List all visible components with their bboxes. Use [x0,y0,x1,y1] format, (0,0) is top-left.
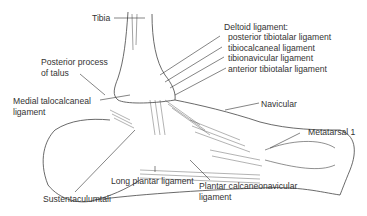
label-deltoid-posterior-tibiotalar: posterior tibiotalar ligament [228,32,331,42]
label-plantar-calcaneonavicular-line2: ligament [199,192,231,202]
label-deltoid-anterior-tibiotalar: anterior tibiotalar ligament [228,64,327,74]
label-sustentaculum-tali: Sustentaculumtali [43,194,111,204]
label-deltoid-title: Deltoid ligament: [224,22,288,32]
label-tibia: Tibia [92,13,110,23]
label-posterior-process-line2: of talus [41,68,69,78]
label-long-plantar-ligament: Long plantar ligament [111,176,194,186]
label-deltoid-tibionavicular: tibionavicular ligament [228,53,313,63]
label-metatarsal-1: Metatarsal 1 [308,127,355,137]
label-deltoid-tibiocalcaneal: tibiocalcaneal ligament [228,43,315,53]
label-navicular: Navicular [261,99,297,109]
label-plantar-calcaneonavicular-line1: Plantar calcaneonavicular [199,181,297,191]
label-medial-talocalcaneal-line2: ligament [13,107,45,117]
label-medial-talocalcaneal-line1: Medial talocalcaneal [13,96,91,106]
label-posterior-process-line1: Posterior process [41,57,108,67]
